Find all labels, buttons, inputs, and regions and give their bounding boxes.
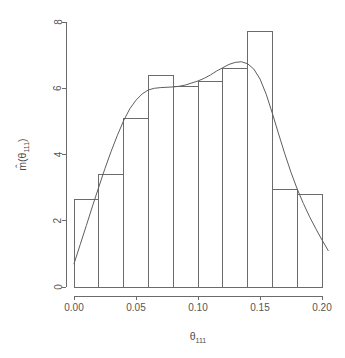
y-axis-title: m̂(θ111) (15, 138, 30, 170)
histogram-bar (248, 32, 273, 287)
y-axis: 02468 (53, 19, 67, 290)
histogram-bar (124, 118, 149, 287)
x-axis-title-text: θ111 (190, 330, 207, 344)
density-curve-path (74, 62, 328, 264)
x-axis-tick-label: 0.00 (64, 302, 84, 313)
x-axis-tick-label: 0.15 (250, 302, 270, 313)
histogram-bar (173, 87, 198, 287)
y-axis-tick-label: 2 (53, 218, 64, 224)
histogram-bar (148, 75, 173, 287)
x-axis-tick-label: 0.20 (312, 302, 332, 313)
y-axis-tick-label: 6 (53, 85, 64, 91)
x-axis-tick-label: 0.05 (126, 302, 146, 313)
y-axis-tick-label: 4 (53, 151, 64, 157)
histogram-bar (223, 68, 248, 287)
y-axis-tick-label: 0 (53, 284, 64, 290)
histogram-bar (272, 189, 297, 287)
x-axis: 0.000.050.100.150.20 (64, 296, 332, 313)
histogram-plot-panel: 02468 0.000.050.100.150.20 m̂(θ111) θ111 (0, 0, 345, 358)
y-axis-tick-label: 8 (53, 19, 64, 25)
density-curve (74, 62, 328, 264)
histogram-bar (74, 199, 99, 287)
x-axis-tick-label: 0.10 (188, 302, 208, 313)
histogram-bar (297, 194, 322, 287)
histogram-bars (74, 32, 322, 287)
y-axis-title-text: m̂(θ111) (15, 138, 30, 170)
histogram-bar (99, 174, 124, 287)
x-axis-title: θ111 (190, 330, 207, 344)
histogram-bar (198, 82, 223, 287)
histogram-chart: 02468 0.000.050.100.150.20 m̂(θ111) θ111 (0, 0, 345, 358)
